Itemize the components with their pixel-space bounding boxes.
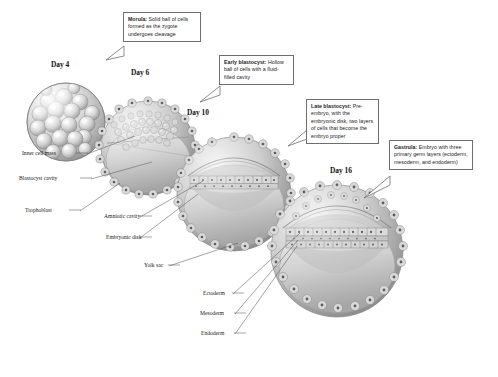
annotation-blastocyst-cavity: Blastocyst cavity (19, 175, 57, 181)
callout-gastrula-term: Gastrula: (394, 144, 417, 150)
callout-early-blastocyst-term: Early blastocyst: (224, 59, 266, 65)
annotation-ectoderm: Ectoderm (203, 290, 225, 296)
day-label-day-10: Day 10 (187, 108, 209, 117)
callout-morula: Morula: Solid ball of cells formed as th… (123, 12, 201, 42)
callout-late-blastocyst-term: Late blastocyst: (311, 103, 351, 109)
callout-morula-term: Morula: (128, 16, 147, 22)
annotation-trophoblast: Trophoblast (25, 207, 52, 213)
stage-day-16-gastrula (268, 181, 408, 318)
callout-early-blastocyst: Early blastocyst: Hollow ball of cells w… (219, 55, 294, 85)
day-label-day-6: Day 6 (131, 68, 149, 77)
annotation-mesoderm: Mesoderm (200, 310, 224, 316)
day-label-day-4: Day 4 (51, 60, 69, 69)
embryo-development-figure: Morula: Solid ball of cells formed as th… (0, 0, 498, 377)
callout-late-blastocyst: Late blastocyst: Pre-embryo, with the em… (306, 99, 379, 144)
day-label-day-16: Day 16 (330, 166, 352, 175)
annotation-amniotic-cavity: Amniotic cavity (104, 213, 140, 219)
annotation-embryonic-disk: Embryonic disk (106, 234, 142, 240)
annotation-yolk-sac: Yolk sac (144, 262, 163, 268)
annotation-endoderm: Endoderm (201, 330, 224, 336)
annotation-inner-cell-mass: Inner cell mass (22, 150, 56, 156)
callout-gastrula: Gastrula: Embryo with three primary germ… (389, 140, 473, 170)
